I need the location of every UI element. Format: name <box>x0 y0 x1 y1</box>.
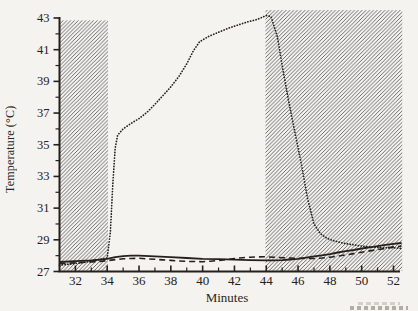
svg-text:35: 35 <box>37 138 50 152</box>
svg-text:41: 41 <box>37 43 50 57</box>
svg-text:39: 39 <box>37 74 50 88</box>
cropped-text-mark <box>350 306 408 310</box>
svg-text:29: 29 <box>37 233 50 247</box>
svg-text:48: 48 <box>323 273 336 288</box>
svg-text:44: 44 <box>260 273 274 288</box>
cropped-text-mark <box>358 302 400 305</box>
svg-text:34: 34 <box>101 273 115 288</box>
svg-text:42: 42 <box>228 273 241 288</box>
svg-text:27: 27 <box>37 265 50 279</box>
svg-text:46: 46 <box>292 273 306 288</box>
y-axis-title: Temperature (°C) <box>2 84 18 214</box>
x-axis-title: Minutes <box>168 290 286 306</box>
temperature-vs-minutes-figure: 2729313335373941433234363840424446485052… <box>0 0 418 311</box>
svg-text:38: 38 <box>164 273 177 288</box>
svg-text:52: 52 <box>387 273 400 288</box>
svg-text:31: 31 <box>37 201 50 215</box>
scanned-chart-page: 2729313335373941433234363840424446485052… <box>0 0 418 311</box>
svg-text:50: 50 <box>355 273 368 288</box>
svg-text:40: 40 <box>196 273 209 288</box>
svg-text:36: 36 <box>133 273 147 288</box>
svg-text:33: 33 <box>37 169 50 183</box>
svg-text:32: 32 <box>69 273 82 288</box>
temperature-line-chart: 2729313335373941433234363840424446485052 <box>0 0 418 311</box>
svg-text:43: 43 <box>37 11 50 25</box>
cropped-text-fragment <box>350 301 412 311</box>
svg-text:37: 37 <box>37 106 50 120</box>
